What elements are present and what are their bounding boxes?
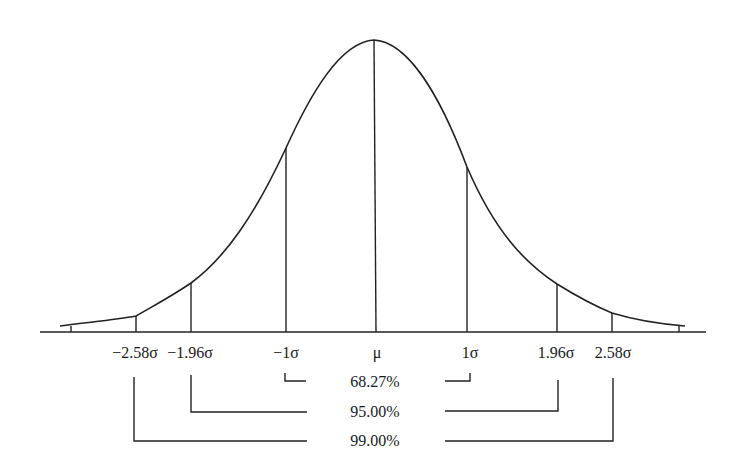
- label-neg-1-96: −1.96σ: [167, 344, 213, 361]
- interval-label-68: 68.27%: [350, 373, 399, 390]
- interval-label-99: 99.00%: [350, 432, 399, 449]
- bracket-68: 68.27%: [285, 373, 470, 390]
- normal-distribution-diagram: −2.58σ −1.96σ −1σ μ 1σ 1.96σ 2.58σ 68.27…: [0, 0, 740, 472]
- label-mu: μ: [373, 344, 382, 362]
- marker-mu: [374, 40, 376, 332]
- label-pos-2-58: 2.58σ: [595, 344, 632, 361]
- bell-curve: [60, 40, 685, 326]
- label-pos-1: 1σ: [462, 344, 479, 361]
- label-pos-1-96: 1.96σ: [538, 344, 575, 361]
- interval-label-95: 95.00%: [350, 403, 399, 420]
- label-neg-1: −1σ: [273, 344, 299, 361]
- label-neg-2-58: −2.58σ: [112, 344, 158, 361]
